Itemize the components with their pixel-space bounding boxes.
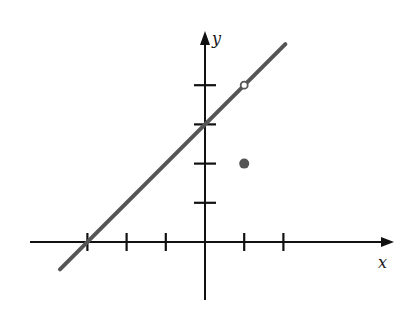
- coordinate-plot: x y: [0, 0, 414, 320]
- y-axis-arrow-icon: [200, 31, 210, 45]
- x-axis-arrow-icon: [381, 237, 394, 247]
- open-point: [241, 82, 248, 89]
- function-line: [60, 44, 285, 269]
- y-axis-label: y: [211, 29, 222, 48]
- axes: [30, 31, 394, 300]
- x-axis-label: x: [378, 253, 387, 272]
- axis-ticks: [87, 85, 283, 251]
- filled-point: [239, 159, 249, 169]
- plot-series: [60, 44, 285, 269]
